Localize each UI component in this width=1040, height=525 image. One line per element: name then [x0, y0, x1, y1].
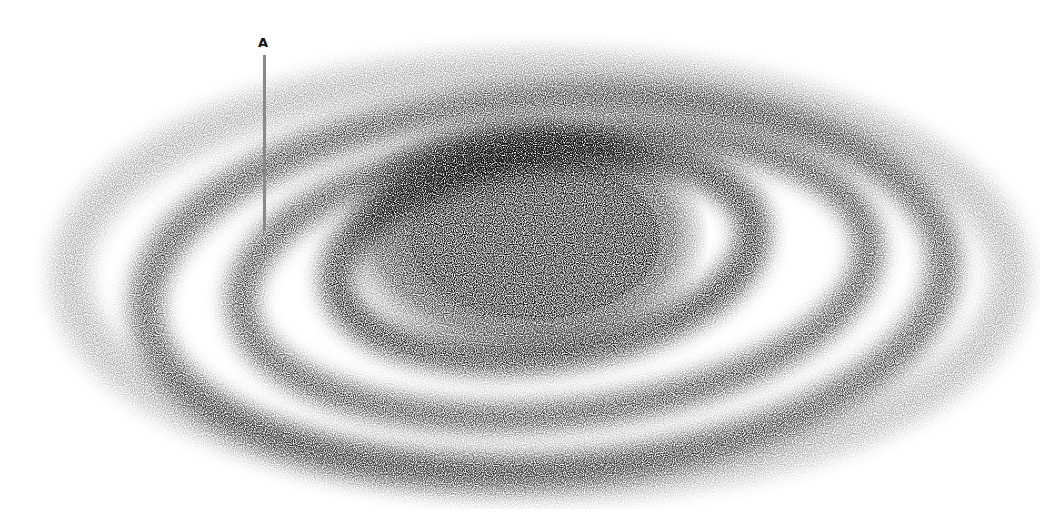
annotation-pointer-line: [263, 55, 266, 231]
galactic-core: [340, 110, 710, 360]
annotation-label-a: A: [258, 36, 268, 49]
galaxy-illustration: [0, 0, 1040, 525]
